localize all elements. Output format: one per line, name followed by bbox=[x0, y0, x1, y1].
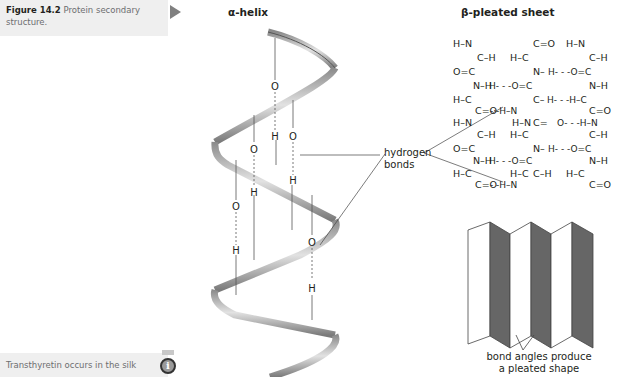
svg-text:H- - -O=C: H- - -O=C bbox=[489, 156, 532, 166]
svg-text:O=C: O=C bbox=[453, 66, 475, 77]
pleat-label-line1: bond angles produce bbox=[484, 351, 594, 363]
svg-text:C–H: C–H bbox=[589, 52, 608, 63]
protein-structure-diagram: O H O O H H O H O H H–N C–H O=C N–H H–C … bbox=[0, 0, 620, 377]
svg-text:H–N: H–N bbox=[453, 117, 472, 128]
svg-text:C–H: C–H bbox=[589, 129, 608, 140]
svg-text:H–C: H–C bbox=[510, 168, 529, 179]
helix-atom-h: H bbox=[250, 187, 258, 198]
helix-atom-h: H bbox=[271, 131, 279, 142]
pleat-label-line2: a pleated shape bbox=[484, 363, 594, 375]
svg-text:C–H: C–H bbox=[477, 129, 496, 140]
svg-text:H–C: H–C bbox=[510, 52, 529, 63]
svg-text:H–C: H–C bbox=[510, 129, 529, 140]
hydrogen-bonds-label-line1: hydrogen bbox=[384, 147, 431, 159]
svg-text:H–C: H–C bbox=[453, 168, 472, 179]
beta-sheet-structure: H–N C–H O=C N–H H–C C=O H–N C–H O=C N–H … bbox=[453, 38, 611, 190]
helix-atom-o: O bbox=[308, 237, 316, 248]
svg-text:C=O: C=O bbox=[533, 38, 555, 49]
hydrogen-bonds-label: hydrogen bonds bbox=[384, 147, 431, 171]
helix-atom-o: O bbox=[271, 81, 279, 92]
svg-text:H–N: H–N bbox=[453, 38, 472, 49]
helix-atom-h: H bbox=[289, 175, 297, 186]
hydrogen-bonds-label-line2: bonds bbox=[384, 159, 431, 171]
svg-text:N–: N– bbox=[533, 143, 545, 154]
helix-atom-o: O bbox=[232, 201, 240, 212]
helix-atom-h: H bbox=[232, 245, 240, 256]
svg-text:C=: C= bbox=[533, 117, 548, 128]
svg-text:C=O: C=O bbox=[589, 179, 611, 190]
svg-text:-·-H–N: -·-H–N bbox=[490, 106, 517, 116]
svg-text:H–C: H–C bbox=[453, 94, 472, 105]
svg-text:H–N: H–N bbox=[566, 38, 585, 49]
svg-text:C–: C– bbox=[533, 94, 545, 105]
alpha-helix-title: α-helix bbox=[228, 6, 268, 18]
svg-text:H- - -O=C: H- - -O=C bbox=[548, 144, 591, 154]
svg-text:H- - -O=C: H- - -O=C bbox=[489, 81, 532, 91]
svg-text:- -H–N: - -H–N bbox=[490, 180, 517, 190]
svg-text:C–H: C–H bbox=[533, 168, 552, 179]
svg-text:H- - -H–C: H- - -H–C bbox=[547, 95, 587, 105]
helix-atom-o: O bbox=[289, 131, 297, 142]
pleat-label: bond angles produce a pleated shape bbox=[484, 351, 594, 375]
svg-text:N–H: N–H bbox=[589, 155, 608, 166]
svg-text:H–C: H–C bbox=[566, 168, 585, 179]
helix-atom-h: H bbox=[308, 283, 316, 294]
svg-text:C=O: C=O bbox=[589, 105, 611, 116]
helix-atom-o: O bbox=[250, 144, 258, 155]
svg-text:O=C: O=C bbox=[453, 143, 475, 154]
svg-text:N–H: N–H bbox=[589, 80, 608, 91]
pleated-sheet-illustration bbox=[468, 222, 593, 350]
svg-text:H- - -O=C: H- - -O=C bbox=[548, 67, 591, 77]
svg-text:H–N: H–N bbox=[512, 117, 531, 128]
svg-text:O- - -H–N: O- - -H–N bbox=[557, 118, 598, 128]
svg-text:C–H: C–H bbox=[477, 52, 496, 63]
svg-text:N–: N– bbox=[533, 66, 545, 77]
beta-sheet-title: β-pleated sheet bbox=[461, 6, 555, 18]
